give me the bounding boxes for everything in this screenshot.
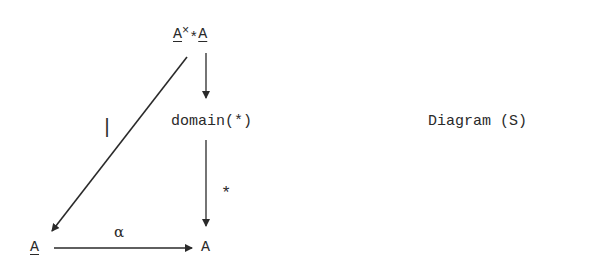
node-domain: domain(*) — [171, 114, 252, 129]
node-bottom-left-A: A — [30, 240, 39, 255]
diagram-caption: Diagram (S) — [428, 114, 527, 129]
node-top-left-A: A — [173, 26, 182, 43]
node-top-right-A: A — [198, 26, 207, 43]
node-bottom-right-A: A — [201, 240, 210, 255]
diagram-arrows — [0, 0, 599, 273]
edge-label-diagonal: | — [101, 118, 113, 138]
node-top: A×*A — [173, 27, 207, 42]
arrow-top-to-bottom-left — [52, 57, 187, 231]
edge-label-alpha: α — [114, 225, 124, 240]
star-symbol: * — [189, 30, 198, 47]
edge-label-star: * — [221, 185, 231, 202]
